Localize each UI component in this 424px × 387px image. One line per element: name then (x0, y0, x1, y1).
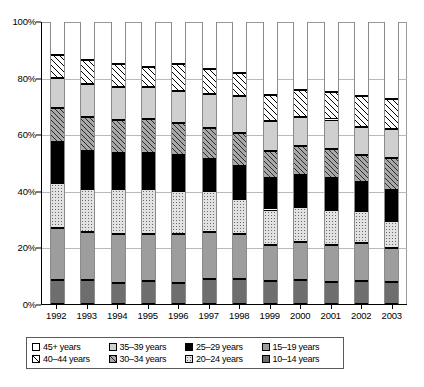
bar-segment[interactable] (81, 189, 94, 233)
bar-segment[interactable] (112, 21, 125, 64)
bar-segment[interactable] (233, 166, 246, 199)
legend-item[interactable]: 15–19 years (262, 343, 339, 352)
bar-segment[interactable] (51, 78, 64, 109)
bar-segment[interactable] (51, 142, 64, 182)
bar-segment[interactable] (233, 279, 246, 304)
bar-segment[interactable] (81, 151, 94, 189)
bar-segment[interactable] (325, 282, 338, 304)
legend-item[interactable]: 30–34 years (109, 355, 186, 364)
bar-segment[interactable] (264, 245, 277, 282)
bar-segment[interactable] (81, 60, 94, 85)
bar-segment[interactable] (142, 281, 155, 304)
stacked-bar[interactable] (263, 22, 278, 304)
bar-segment[interactable] (355, 155, 368, 182)
bar-segment[interactable] (385, 248, 398, 282)
stacked-bar[interactable] (111, 22, 126, 304)
bar-segment[interactable] (142, 189, 155, 234)
bar-segment[interactable] (112, 283, 125, 304)
bar-segment[interactable] (355, 182, 368, 211)
bar-segment[interactable] (51, 280, 64, 304)
bar-segment[interactable] (203, 279, 216, 304)
stacked-bar[interactable] (50, 22, 65, 304)
bar-segment[interactable] (172, 234, 185, 284)
bar-segment[interactable] (294, 146, 307, 175)
stacked-bar[interactable] (80, 22, 95, 304)
bar-segment[interactable] (142, 21, 155, 67)
bar-segment[interactable] (264, 151, 277, 179)
bar-segment[interactable] (112, 87, 125, 120)
bar-segment[interactable] (233, 96, 246, 134)
bar-segment[interactable] (385, 190, 398, 221)
legend-item[interactable]: 35–39 years (109, 343, 186, 352)
bar-segment[interactable] (264, 178, 277, 209)
bar-segment[interactable] (355, 211, 368, 243)
bar-segment[interactable] (325, 210, 338, 245)
stacked-bar[interactable] (354, 22, 369, 304)
bar-segment[interactable] (264, 21, 277, 95)
stacked-bar[interactable] (141, 22, 156, 304)
bar-segment[interactable] (112, 120, 125, 153)
bar-segment[interactable] (172, 64, 185, 91)
bar-segment[interactable] (112, 189, 125, 234)
bar-segment[interactable] (142, 87, 155, 118)
legend-item[interactable]: 25–29 years (185, 343, 262, 352)
bar-segment[interactable] (294, 207, 307, 242)
bar-segment[interactable] (172, 191, 185, 234)
bar-segment[interactable] (385, 99, 398, 128)
legend-item[interactable]: 10–14 years (262, 355, 339, 364)
bar-segment[interactable] (355, 21, 368, 96)
bar-segment[interactable] (203, 191, 216, 232)
bar-segment[interactable] (355, 243, 368, 281)
bar-segment[interactable] (51, 108, 64, 142)
bar-segment[interactable] (294, 242, 307, 279)
bar-segment[interactable] (51, 228, 64, 280)
bar-segment[interactable] (325, 21, 338, 92)
bar-segment[interactable] (81, 280, 94, 304)
bar-segment[interactable] (294, 117, 307, 146)
bar-segment[interactable] (172, 21, 185, 64)
stacked-bar[interactable] (324, 22, 339, 304)
stacked-bar[interactable] (171, 22, 186, 304)
bar-segment[interactable] (203, 94, 216, 128)
stacked-bar[interactable] (232, 22, 247, 304)
bar-segment[interactable] (142, 234, 155, 282)
bar-segment[interactable] (233, 73, 246, 96)
stacked-bar[interactable] (202, 22, 217, 304)
bar-segment[interactable] (385, 21, 398, 99)
bar-segment[interactable] (112, 153, 125, 189)
bar-segment[interactable] (264, 121, 277, 151)
bar-segment[interactable] (203, 159, 216, 192)
bar-segment[interactable] (294, 21, 307, 90)
legend-item[interactable]: 20–24 years (185, 355, 262, 364)
bar-segment[interactable] (325, 149, 338, 178)
bar-segment[interactable] (51, 21, 64, 55)
bar-segment[interactable] (81, 21, 94, 59)
bar-segment[interactable] (385, 129, 398, 159)
bar-segment[interactable] (355, 281, 368, 304)
legend-item[interactable]: 40–44 years (32, 355, 109, 364)
bar-segment[interactable] (294, 175, 307, 207)
bar-segment[interactable] (264, 210, 277, 245)
bar-segment[interactable] (51, 55, 64, 77)
bar-segment[interactable] (112, 64, 125, 87)
bar-segment[interactable] (233, 21, 246, 73)
bar-segment[interactable] (203, 128, 216, 159)
bar-segment[interactable] (142, 153, 155, 189)
bar-segment[interactable] (81, 117, 94, 151)
bar-segment[interactable] (385, 282, 398, 304)
bar-segment[interactable] (325, 92, 338, 119)
bar-segment[interactable] (81, 232, 94, 280)
bar-segment[interactable] (385, 221, 398, 248)
bar-segment[interactable] (325, 178, 338, 210)
bar-segment[interactable] (172, 123, 185, 155)
bar-segment[interactable] (385, 158, 398, 190)
bar-segment[interactable] (142, 67, 155, 88)
bar-segment[interactable] (325, 245, 338, 282)
bar-segment[interactable] (355, 127, 368, 155)
bar-segment[interactable] (172, 283, 185, 304)
bar-segment[interactable] (325, 120, 338, 150)
stacked-bar[interactable] (293, 22, 308, 304)
bar-segment[interactable] (203, 69, 216, 94)
stacked-bar[interactable] (384, 22, 399, 304)
bar-segment[interactable] (51, 183, 64, 228)
